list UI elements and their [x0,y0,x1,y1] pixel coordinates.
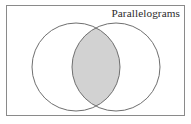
venn-diagram-canvas: Parallelograms [0,0,191,124]
venn-diagram-figure: Parallelograms [0,0,191,124]
diagram-title: Parallelograms [111,7,180,19]
